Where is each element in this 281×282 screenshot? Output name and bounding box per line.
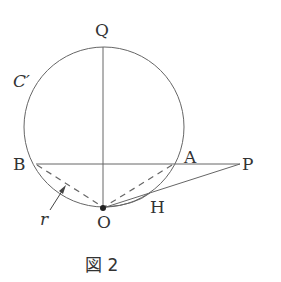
label-r: r: [40, 209, 49, 229]
label-a: A: [183, 147, 197, 167]
figure-caption: 図 2: [85, 255, 118, 275]
point-o-dot: [100, 205, 106, 211]
label-b: B: [13, 154, 26, 174]
geometry-figure: Q C′ B A P O H r 図 2: [0, 0, 281, 282]
arrow-head-icon: [59, 185, 66, 194]
label-p: P: [242, 154, 253, 174]
diagram-canvas: Q C′ B A P O H r 図 2: [0, 0, 281, 282]
label-h: H: [150, 197, 165, 217]
label-q: Q: [95, 20, 109, 40]
circle-c-prime: [24, 47, 184, 207]
label-c-prime: C′: [13, 71, 30, 91]
dashed-ob: [37, 165, 103, 207]
line-op: [106, 164, 240, 207]
label-o: O: [97, 212, 111, 232]
